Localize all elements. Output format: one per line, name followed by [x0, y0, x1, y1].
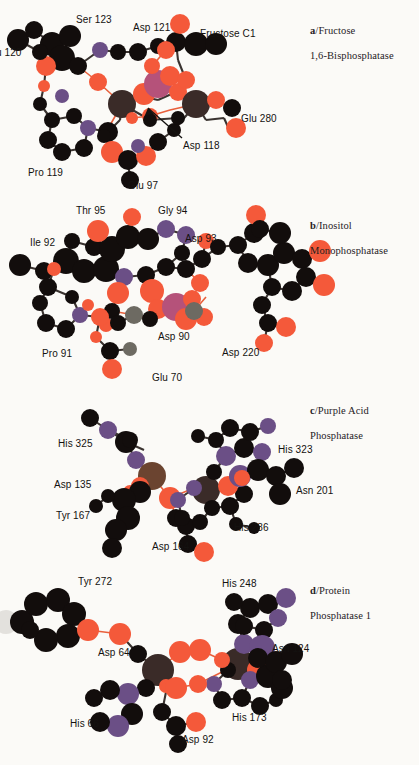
label-ile-92: Ile 92: [30, 237, 55, 248]
label-asp-93: Asp 93: [185, 233, 217, 244]
panel-d-title: d/Protein Phosphatase 1: [310, 572, 371, 622]
panel-a-title-line2: 1,6-Bisphosphatase: [310, 50, 394, 61]
label-his-248: His 248: [222, 578, 257, 589]
panel-d-protein-phosphatase-1: d/Protein Phosphatase 1 Tyr 272 His 248 …: [0, 560, 419, 765]
label-tyr-167: Tyr 167: [56, 510, 90, 521]
label-asp-220: Asp 220: [222, 347, 259, 358]
label-asp-92: Asp 92: [182, 734, 214, 745]
label-pro-91: Pro 91: [42, 348, 72, 359]
panel-a-title-line1: /Fructose: [315, 25, 355, 36]
label-asp-135: Asp 135: [54, 479, 91, 490]
label-asp-118: Asp 118: [183, 140, 220, 151]
panel-b-title: b/Inositol Monophosphatase: [310, 207, 388, 257]
panel-c-atoms: [81, 409, 304, 562]
label-his-325: His 325: [58, 438, 93, 449]
label-pro-119: Pro 119: [28, 167, 63, 178]
phosphatase-active-site-figure: a/Fructose 1,6-Bisphosphatase Ser 123 As…: [0, 0, 419, 765]
label-fructose-c1: Fructose C1: [200, 28, 256, 39]
label-glu-120: u 120: [0, 47, 22, 58]
label-thr-95: Thr 95: [76, 205, 106, 216]
label-his-286: His 286: [234, 522, 269, 533]
panel-d-title-line2: Phosphatase 1: [310, 610, 371, 621]
label-his-323: His 323: [278, 444, 313, 455]
label-glu-280: Glu 280: [241, 113, 277, 124]
label-asp-121: Asp 121: [133, 22, 170, 33]
panel-c-title-line1: /Purple Acid: [315, 405, 369, 416]
panel-a-atoms: [7, 14, 246, 189]
panel-a-title: a/Fructose 1,6-Bisphosphatase: [310, 12, 394, 62]
label-tyr-272: Tyr 272: [78, 576, 112, 587]
panel-d-atoms: [10, 588, 303, 753]
panel-b-title-line1: /Inositol: [316, 220, 352, 231]
panel-b-title-line2: Monophosphatase: [310, 245, 388, 256]
panel-b-inositol-monophosphatase: b/Inositol Monophosphatase Thr 95 Gly 94…: [0, 195, 419, 380]
label-asp-64: Asp 64: [98, 647, 130, 658]
label-asp-90: Asp 90: [158, 331, 190, 342]
panel-c-title: c/Purple Acid Phosphatase: [310, 392, 369, 442]
label-asn-124: Asn 124: [272, 643, 309, 654]
label-asp-164: Asp 164: [152, 541, 189, 552]
panel-a-fructose-16-bisphosphatase: a/Fructose 1,6-Bisphosphatase Ser 123 As…: [0, 0, 419, 200]
label-ser-123: Ser 123: [76, 14, 112, 25]
panel-c-purple-acid-phosphatase: c/Purple Acid Phosphatase His 325 His 32…: [0, 378, 419, 563]
panel-c-title-line2: Phosphatase: [310, 430, 363, 441]
label-glu-97: Glu 97: [128, 180, 158, 191]
panel-d-title-line1: /Protein: [316, 585, 350, 596]
label-his-66: His 66: [70, 718, 99, 729]
label-asn-201: Asn 201: [296, 485, 333, 496]
label-his-173: His 173: [232, 712, 267, 723]
label-gly-94: Gly 94: [158, 205, 188, 216]
